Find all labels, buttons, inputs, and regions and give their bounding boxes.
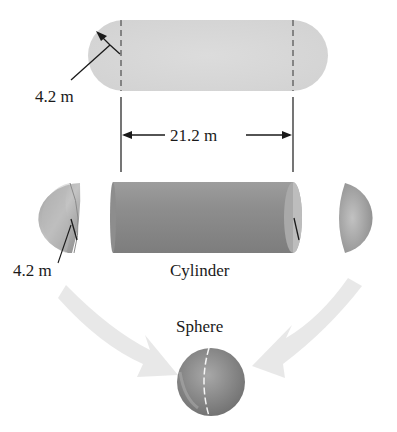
sphere (177, 348, 245, 416)
capsule-radius-label: 4.2 m (35, 88, 74, 105)
merge-arrow-left-icon (58, 285, 178, 377)
merge-arrow-right-icon (252, 278, 362, 378)
capsule-length-label: 21.2 m (170, 127, 217, 144)
sphere-label: Sphere (176, 318, 223, 335)
capsule-decomposition-diagram (0, 0, 397, 432)
hemisphere-radius-label: 4.2 m (13, 262, 52, 279)
left-hemisphere (38, 183, 80, 263)
capsule-shape (88, 20, 328, 91)
right-hemisphere (339, 183, 373, 253)
cylinder-label: Cylinder (170, 262, 230, 279)
cylinder (110, 182, 302, 253)
